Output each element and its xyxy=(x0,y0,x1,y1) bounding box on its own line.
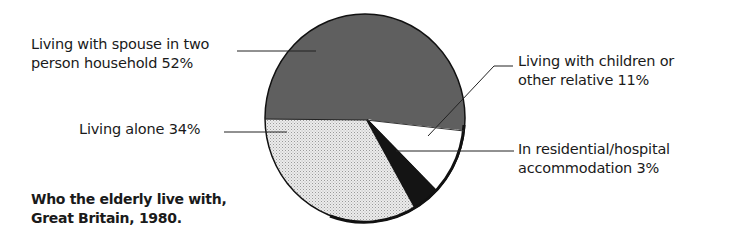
chart-title-line2: Great Britain, 1980. xyxy=(31,209,226,228)
label-alone-line1: Living alone 34% xyxy=(79,120,200,139)
label-residential: In residential/hospital accommodation 3% xyxy=(518,140,670,178)
slice-living-with-spouse xyxy=(250,0,470,131)
label-children-line1: Living with children or xyxy=(518,52,674,71)
label-spouse-line1: Living with spouse in two xyxy=(31,35,209,54)
label-spouse: Living with spouse in two person househo… xyxy=(31,35,209,73)
label-alone: Living alone 34% xyxy=(79,120,200,139)
chart-title-line1: Who the elderly live with, xyxy=(31,190,226,209)
label-children: Living with children or other relative 1… xyxy=(518,52,674,90)
label-spouse-line2: person household 52% xyxy=(31,54,209,73)
chart-title: Who the elderly live with, Great Britain… xyxy=(31,190,226,228)
label-residential-line2: accommodation 3% xyxy=(518,159,670,178)
label-children-line2: other relative 11% xyxy=(518,71,674,90)
label-residential-line1: In residential/hospital xyxy=(518,140,670,159)
